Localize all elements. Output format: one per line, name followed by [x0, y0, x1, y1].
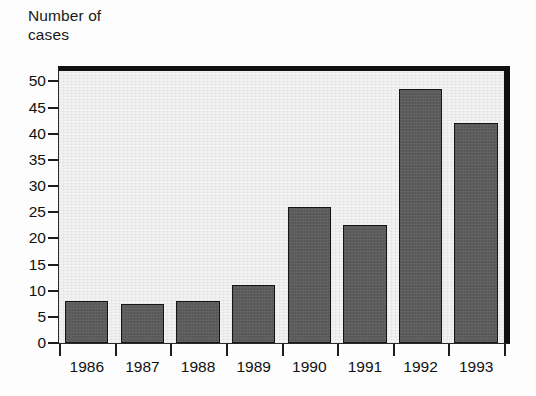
x-axis-tick-label: 1988	[181, 358, 215, 376]
bar-slot	[393, 71, 449, 343]
y-axis-labels-group: 05101520253035404550	[0, 0, 46, 396]
x-axis-tick-label: 1991	[348, 358, 382, 376]
y-axis-tick	[48, 316, 59, 318]
x-axis-tick-label: 1986	[70, 358, 104, 376]
x-axis-tick	[170, 344, 172, 356]
y-axis-tick-label: 35	[2, 151, 46, 169]
y-axis-tick	[48, 342, 59, 344]
x-axis-tick	[448, 344, 450, 356]
bar-slot	[170, 71, 226, 343]
x-axis-tick-label: 1993	[459, 358, 493, 376]
bar[interactable]	[454, 123, 497, 343]
y-axis-tick	[48, 264, 59, 266]
plot-area	[58, 66, 510, 344]
y-axis-tick	[48, 237, 59, 239]
bar-slot	[448, 71, 504, 343]
x-axis-tick	[337, 344, 339, 356]
x-axis-tick	[504, 344, 506, 356]
bar[interactable]	[121, 304, 164, 343]
bar[interactable]	[288, 207, 331, 343]
bar[interactable]	[232, 285, 275, 343]
bar-slot	[115, 71, 171, 343]
y-axis-tick	[48, 107, 59, 109]
y-axis-tick	[48, 133, 59, 135]
bar[interactable]	[176, 301, 219, 343]
bar-slot	[59, 71, 115, 343]
y-axis-tick-label: 15	[2, 256, 46, 274]
y-axis-tick-label: 45	[2, 99, 46, 117]
bar[interactable]	[399, 89, 442, 343]
y-axis-tick-label: 10	[2, 282, 46, 300]
x-axis-tick	[282, 344, 284, 356]
y-axis-tick-label: 25	[2, 203, 46, 221]
y-axis-tick-label: 0	[2, 334, 46, 352]
y-axis-tick	[48, 80, 59, 82]
y-axis-tick-label: 50	[2, 72, 46, 90]
y-axis-tick-label: 5	[2, 308, 46, 326]
x-axis-tick	[226, 344, 228, 356]
bar-slot	[226, 71, 282, 343]
y-axis-tick-label: 40	[2, 125, 46, 143]
bar-slot	[337, 71, 393, 343]
x-axis-tick-label: 1990	[292, 358, 326, 376]
x-axis-tick	[115, 344, 117, 356]
y-axis-tick-label: 20	[2, 229, 46, 247]
x-axis-tick-label: 1992	[403, 358, 437, 376]
bars-layer	[59, 71, 504, 343]
y-axis-tick	[48, 185, 59, 187]
bar-chart-figure: Number of cases 05101520253035404550 198…	[0, 0, 536, 396]
y-axis-tick	[48, 159, 59, 161]
bar[interactable]	[65, 301, 108, 343]
x-axis-tick-label: 1989	[236, 358, 270, 376]
y-axis-tick-label: 30	[2, 177, 46, 195]
x-axis-tick	[393, 344, 395, 356]
bar-slot	[282, 71, 338, 343]
bar[interactable]	[343, 225, 386, 343]
y-axis-tick	[48, 211, 59, 213]
x-axis-tick-label: 1987	[125, 358, 159, 376]
y-axis-tick	[48, 290, 59, 292]
x-axis-tick	[59, 344, 61, 356]
